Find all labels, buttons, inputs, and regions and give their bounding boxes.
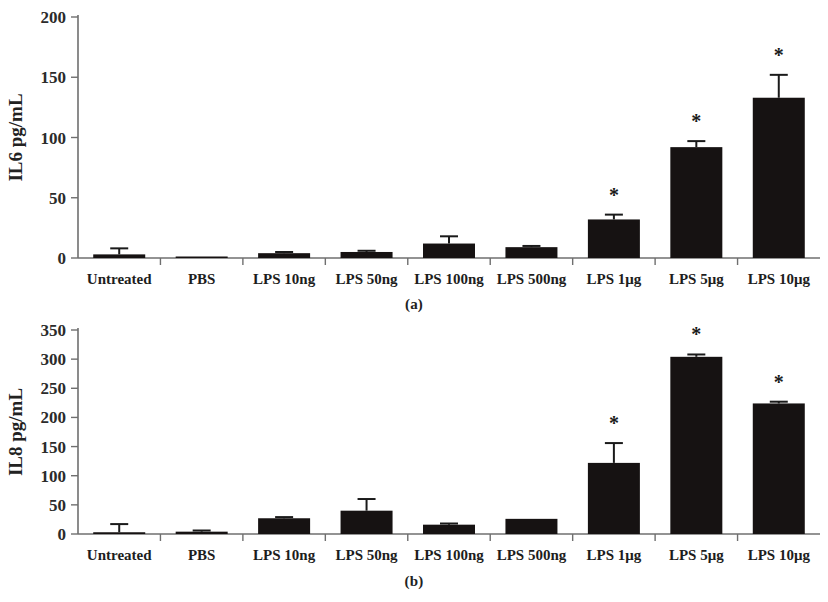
x-axis-category-label: PBS: [188, 547, 216, 563]
bar-group: [341, 499, 393, 534]
bar-group: [341, 251, 393, 258]
significance-marker: *: [691, 323, 701, 345]
x-axis-category-label: LPS 5μg: [669, 547, 724, 563]
significance-marker: *: [691, 110, 701, 132]
x-axis-category-label: LPS 10ng: [253, 547, 316, 563]
x-axis-category-label: LPS 50ng: [336, 547, 399, 563]
bar-group: *: [588, 184, 640, 258]
bar: [93, 254, 145, 258]
x-axis-category-label: Untreated: [87, 547, 152, 563]
bar: [423, 525, 475, 534]
bar: [670, 147, 722, 258]
bar: [753, 98, 805, 258]
bar-group: *: [588, 412, 640, 534]
chart-panel-a: 050100150200IL6 pg/mLUntreatedPBSLPS 10n…: [0, 0, 828, 300]
x-axis-category-label: LPS 50ng: [336, 271, 399, 287]
bar: [176, 532, 228, 534]
y-axis-title: IL6 pg/mL: [5, 93, 26, 181]
bar-group: [505, 246, 557, 258]
bar-group: [176, 257, 228, 259]
bar-group: [423, 524, 475, 534]
x-axis-category-label: LPS 100ng: [414, 547, 484, 563]
x-axis-category-label: PBS: [188, 271, 216, 287]
panel-caption-b: (b): [0, 573, 828, 590]
x-axis-category-label: LPS 1μg: [587, 547, 642, 563]
bar-group: *: [670, 323, 722, 534]
y-axis-tick-label: 50: [49, 189, 66, 208]
bar: [341, 252, 393, 258]
x-axis-category-label: LPS 10μg: [748, 271, 811, 287]
bar: [505, 519, 557, 534]
x-axis-category-label: LPS 500ng: [497, 547, 567, 563]
x-axis-category-label: LPS 5μg: [669, 271, 724, 287]
bar: [341, 511, 393, 534]
significance-marker: *: [609, 184, 619, 206]
x-axis-category-label: LPS 1μg: [587, 271, 642, 287]
figure-container: 050100150200IL6 pg/mLUntreatedPBSLPS 10n…: [0, 0, 828, 602]
bar-group: [258, 252, 310, 258]
significance-marker: *: [774, 371, 784, 393]
bar-group: *: [753, 44, 805, 258]
bar: [176, 257, 228, 259]
bar-group: [423, 236, 475, 258]
bar-group: [176, 531, 228, 534]
y-axis-tick-label: 0: [58, 525, 67, 544]
y-axis-tick-label: 150: [41, 438, 67, 457]
y-axis-tick-label: 100: [41, 129, 67, 148]
y-axis-tick-label: 250: [41, 379, 67, 398]
y-axis-title: IL8 pg/mL: [5, 388, 26, 476]
y-axis-tick-label: 200: [41, 8, 67, 27]
bar: [753, 403, 805, 534]
y-axis-tick-label: 150: [41, 68, 67, 87]
y-axis-tick-label: 200: [41, 408, 67, 427]
significance-marker: *: [774, 44, 784, 66]
y-axis-tick-label: 0: [58, 249, 67, 268]
bar: [258, 518, 310, 534]
bar: [505, 247, 557, 258]
bar-group: [258, 517, 310, 534]
bar: [93, 532, 145, 534]
x-axis-category-label: LPS 100ng: [414, 271, 484, 287]
bar-group: [505, 519, 557, 534]
y-axis-tick-label: 100: [41, 467, 67, 486]
bar: [258, 253, 310, 258]
x-axis-category-label: Untreated: [87, 271, 152, 287]
y-axis-tick-label: 350: [41, 321, 67, 340]
bar-chart-il6: 050100150200IL6 pg/mLUntreatedPBSLPS 10n…: [0, 0, 828, 300]
bar: [670, 357, 722, 534]
bar: [588, 463, 640, 534]
bar-chart-il8: 050100150200250300350IL8 pg/mLUntreatedP…: [0, 300, 828, 590]
x-axis-category-label: LPS 10ng: [253, 271, 316, 287]
bar-group: *: [670, 110, 722, 258]
y-axis-tick-label: 50: [49, 496, 66, 515]
bar-group: *: [753, 371, 805, 534]
x-axis-category-label: LPS 500ng: [497, 271, 567, 287]
bar: [423, 244, 475, 258]
x-axis-category-label: LPS 10μg: [748, 547, 811, 563]
y-axis-tick-label: 300: [41, 350, 67, 369]
bar-group: [93, 248, 145, 258]
bar-group: [93, 524, 145, 534]
bar: [588, 219, 640, 258]
significance-marker: *: [609, 412, 619, 434]
chart-panel-b: 050100150200250300350IL8 pg/mLUntreatedP…: [0, 300, 828, 602]
